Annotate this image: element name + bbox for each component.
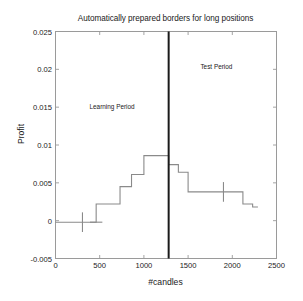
- axis-tick-marks: [56, 32, 277, 259]
- y-axis-tick-labels: -0.00500.0050.010.0150.020.025: [8, 0, 52, 301]
- x-axis-label: #candles: [55, 277, 276, 287]
- chart-annotation: Test Period: [200, 62, 232, 69]
- x-tick-label: 0: [36, 261, 76, 270]
- y-tick-label: 0: [12, 216, 52, 225]
- data-series-line: [56, 156, 258, 223]
- axes-frame: [56, 32, 277, 259]
- y-tick-label: 0.015: [12, 103, 52, 112]
- x-tick-label: 1500: [168, 261, 208, 270]
- chart-annotation: Learning Period: [90, 102, 135, 109]
- y-tick-label: 0.01: [12, 141, 52, 150]
- x-tick-label: 2000: [212, 261, 252, 270]
- x-tick-label: 2500: [257, 261, 297, 270]
- chart-title: Automatically prepared borders for long …: [55, 14, 276, 23]
- y-tick-label: 0.025: [12, 27, 52, 36]
- error-bars: [82, 182, 223, 232]
- y-tick-label: 0.02: [12, 65, 52, 74]
- y-tick-label: 0.005: [12, 178, 52, 187]
- x-tick-label: 1000: [124, 261, 164, 270]
- x-tick-label: 500: [80, 261, 120, 270]
- chart-figure: Automatically prepared borders for long …: [0, 0, 303, 301]
